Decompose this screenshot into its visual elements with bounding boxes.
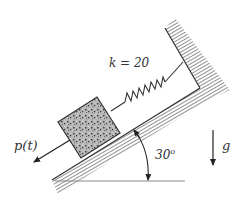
force-arrow: [34, 140, 70, 162]
gravity-label: g: [222, 138, 230, 153]
spring-constant-label: k = 20: [109, 56, 150, 70]
force-label: p(t): [14, 138, 38, 153]
wall: [165, 18, 230, 100]
angle-label: 30o: [155, 147, 175, 162]
incline-spring-diagram: p(t) k = 20 30o g: [0, 0, 245, 205]
